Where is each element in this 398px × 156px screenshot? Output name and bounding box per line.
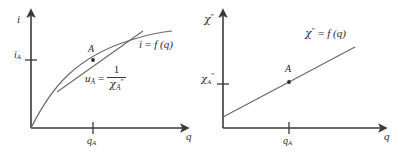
curve-eq-operator: = xyxy=(315,27,327,39)
y-tick-sub: A xyxy=(17,53,21,60)
current-vs-charge-plot: i q iA qA A i=f (q) uA=1χA″ xyxy=(0,0,199,156)
x-tick-label-qA: qA xyxy=(283,136,292,147)
slope-numerator: 1 xyxy=(107,64,126,76)
point-marker-A xyxy=(91,58,95,62)
y-tick-sup: ″ xyxy=(211,73,214,81)
curve-eq-rhs: f (q) xyxy=(154,38,173,50)
x-tick-sub: A xyxy=(288,139,292,146)
slope-operator: = xyxy=(95,72,107,84)
curve-eq-operator: = xyxy=(142,38,154,50)
y-axis-label-sup: ″ xyxy=(211,13,214,22)
slope-annotation: uA=1χA″ xyxy=(85,66,126,93)
x-axis-label: q xyxy=(186,131,192,142)
y-axis-label: i xyxy=(17,14,20,25)
curve-equation-label: i=f (q) xyxy=(139,39,173,50)
curve-eq-rhs: f (q) xyxy=(327,27,346,39)
point-label-A: A xyxy=(285,64,291,74)
x-axis-label: q xyxy=(384,131,390,142)
y-tick-label-chiA: χA″ xyxy=(201,74,214,85)
slope-den-base: χ xyxy=(109,78,116,91)
slope-fraction: 1χA″ xyxy=(107,64,126,91)
x-tick-label-qA: qA xyxy=(87,136,96,147)
point-marker-A xyxy=(287,80,291,84)
point-label-A: A xyxy=(88,44,94,54)
x-tick-sub: A xyxy=(92,139,96,146)
curve-eq-lhs-base: χ xyxy=(305,27,312,40)
figure-root: i q iA qA A i=f (q) uA=1χA″ xyxy=(0,0,398,156)
slope-den-sup: ″ xyxy=(121,78,124,87)
y-axis-label-base: χ xyxy=(204,13,211,26)
y-axis-label: χ″ xyxy=(204,14,214,25)
y-tick-label-iA: iA xyxy=(14,50,21,61)
curve-equation-label: χ″=f (q) xyxy=(305,28,346,39)
chi-vs-charge-plot: χ″ q χA″ qA A χ″=f (q) xyxy=(199,0,398,156)
slope-denominator: χA″ xyxy=(107,79,126,92)
right-plot-canvas xyxy=(199,0,398,156)
